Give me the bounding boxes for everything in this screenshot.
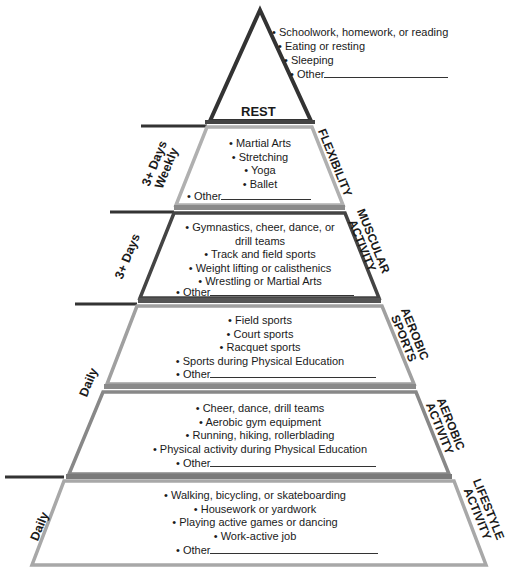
lifestyle-other: • Other xyxy=(176,543,378,558)
aerobic-sports-other-blank[interactable] xyxy=(210,367,376,378)
bullet: • xyxy=(284,54,288,66)
aerobic-sports-items: • Field sports • Court sports • Racquet … xyxy=(170,314,350,368)
rest-item: • Schoolwork, homework, or reading xyxy=(272,26,448,40)
rest-title: REST xyxy=(241,104,276,119)
flexibility-other: • Other xyxy=(187,189,311,204)
bullet: • xyxy=(278,40,282,52)
rest-item: • Eating or resting xyxy=(278,40,365,54)
muscular-other: • Other xyxy=(176,285,354,300)
muscular-items: • Gymnastics, cheer, dance, or drill tea… xyxy=(180,221,340,289)
lifestyle-other-blank[interactable] xyxy=(210,543,378,554)
aerobic-activity-other-blank[interactable] xyxy=(210,456,376,467)
rest-item: • Sleeping xyxy=(284,54,334,68)
bullet: • xyxy=(290,68,294,80)
lifestyle-items: • Walking, bicycling, or skateboarding •… xyxy=(150,489,360,543)
flexibility-other-blank[interactable] xyxy=(221,189,311,200)
muscular-other-blank[interactable] xyxy=(210,285,354,296)
aerobic-sports-other: • Other xyxy=(176,367,376,382)
aerobic-activity-items: • Cheer, dance, drill teams • Aerobic gy… xyxy=(140,402,380,456)
aerobic-activity-other: • Other xyxy=(176,456,376,471)
bullet: • xyxy=(272,26,276,38)
flexibility-items: • Martial Arts • Stretching • Yoga • Bal… xyxy=(200,137,320,191)
rest-other: • Other xyxy=(290,67,448,82)
rest-other-blank[interactable] xyxy=(324,67,448,78)
